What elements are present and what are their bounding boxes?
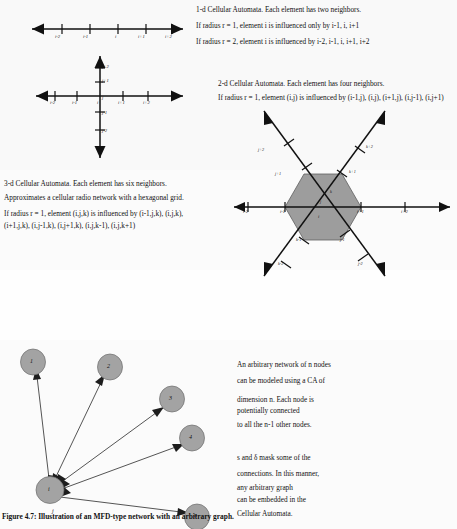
two-d-y-label-2: j bbox=[102, 95, 103, 100]
three-d-i-label-0: i-2 bbox=[243, 209, 248, 214]
one-d-tick-label-1: i-1 bbox=[83, 34, 88, 39]
two-d-axis-diagram bbox=[28, 54, 208, 164]
two-d-x-label-2: i bbox=[97, 100, 98, 105]
three-d-j-label-0: j+2 bbox=[258, 148, 264, 153]
graph-node-2-label: 2 bbox=[107, 363, 110, 369]
figure-caption: Figure 4.7: Illustration of an MFD-type … bbox=[2, 512, 454, 522]
network-text-1-line-2: dimension n. Each node is bbox=[237, 394, 314, 406]
graph-node-3-label: 3 bbox=[169, 395, 172, 401]
three-d-j-label-3: j-1 bbox=[340, 238, 345, 243]
three-d-i-label-3: i+1 bbox=[357, 209, 364, 214]
graph-node-4 bbox=[180, 425, 205, 451]
graph-node-4-label: 4 bbox=[189, 434, 192, 440]
two-d-y-label-1: j+1 bbox=[102, 78, 109, 83]
network-text-1-line-1: can be modeled using a CA of bbox=[237, 375, 325, 387]
three-d-text-line-1: Approximates a cellular radio network wi… bbox=[4, 192, 184, 204]
graph-node-2 bbox=[98, 354, 123, 380]
three-d-k-label-0: k+2 bbox=[366, 145, 373, 150]
graph-node-3 bbox=[160, 386, 185, 412]
graph-node-1-label: 1 bbox=[30, 358, 33, 364]
three-d-k-label-4: k-2 bbox=[278, 262, 283, 267]
three-d-i-label-4: i+2 bbox=[401, 209, 408, 214]
three-d-hexagon-diagram bbox=[228, 108, 457, 280]
one-d-text-line-1: If radius r = 1, element i is influenced… bbox=[196, 20, 359, 32]
network-text-2-line-1: connections. In this manner, bbox=[237, 468, 319, 480]
two-d-y-label-3: j-1 bbox=[102, 110, 107, 115]
one-d-tick-label-2: i bbox=[115, 34, 116, 39]
three-d-j-label-2: j bbox=[320, 200, 321, 205]
three-d-text-line-3: (i+1,j,k), (i,j-1,k), (i,j+1,k), (i,j,k-… bbox=[4, 220, 135, 232]
one-d-tick-label-4: i+2 bbox=[165, 34, 172, 39]
three-d-j-label-4: j-2 bbox=[358, 262, 363, 267]
three-d-text-line-0: 3-d Cellular Automata. Each element has … bbox=[4, 178, 167, 190]
two-d-x-label-1: i-1 bbox=[72, 100, 77, 105]
one-d-text-line-0: 1-d Cellular Automata. Each element has … bbox=[196, 4, 361, 16]
one-d-text-line-2: If radius r = 2, element i is influenced… bbox=[196, 36, 369, 48]
two-d-y-label-0: j+2 bbox=[102, 64, 109, 69]
three-d-k-label-1: k+1 bbox=[349, 170, 356, 175]
network-text-1-line-4: to all the n-1 other nodes. bbox=[237, 419, 312, 431]
network-text-1-line-3: potentially connected bbox=[237, 405, 300, 417]
arbitrary-network-graph bbox=[12, 345, 227, 520]
two-d-text-line-0: 2-d Cellular Automata. Each element has … bbox=[218, 78, 384, 90]
two-d-x-label-3: i+1 bbox=[118, 100, 125, 105]
network-text-2-line-0: s and δ mask some of the bbox=[237, 452, 311, 464]
figure-page: i-2 i-1 i i+1 i+2 1-d Cellular Automata.… bbox=[0, 0, 457, 529]
two-d-x-label-4: i+2 bbox=[143, 100, 150, 105]
network-text-2-line-3: can be embedded in the bbox=[237, 494, 306, 506]
network-text-1-line-0: An arbitrary network of n nodes bbox=[237, 359, 331, 371]
three-d-i-label-1: i-1 bbox=[280, 209, 285, 214]
two-d-text-line-1: If radius r = 1, element (i,j) is influe… bbox=[218, 92, 444, 104]
three-d-k-label-2: k bbox=[330, 190, 332, 195]
three-d-text-line-2: If radius r = 1, element (i,j,k) is infl… bbox=[4, 208, 183, 220]
graph-center-node-label: i bbox=[48, 486, 50, 492]
two-d-y-label-4: j-2 bbox=[102, 128, 107, 133]
graph-node-1 bbox=[21, 349, 46, 375]
three-d-k-label-3: k-1 bbox=[296, 238, 301, 243]
one-d-tick-label-3: i+1 bbox=[138, 34, 145, 39]
graph-node-center bbox=[36, 477, 64, 504]
network-text-2-line-2: any arbitrary graph bbox=[237, 482, 293, 494]
two-d-x-label-0: i-2 bbox=[50, 100, 55, 105]
three-d-j-label-1: j+1 bbox=[275, 172, 281, 177]
one-d-tick-label-0: i-2 bbox=[55, 34, 60, 39]
three-d-i-label-2: i bbox=[318, 214, 319, 219]
